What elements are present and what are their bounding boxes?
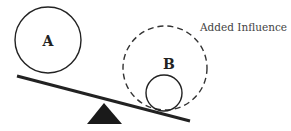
circle-b: B bbox=[146, 56, 182, 111]
fulcrum-triangle bbox=[87, 103, 122, 124]
added-influence-label: Added Influence bbox=[199, 21, 287, 33]
circle-a-label: A bbox=[42, 33, 55, 49]
seesaw-diagram: A B Added Influence bbox=[0, 0, 291, 131]
circle-a: A bbox=[15, 7, 81, 73]
circle-b-label: B bbox=[163, 56, 175, 72]
